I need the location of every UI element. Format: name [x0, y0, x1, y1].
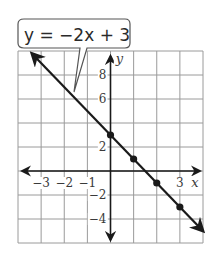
- data-point: [130, 155, 137, 162]
- data-point: [176, 203, 183, 210]
- equation-label: y = −2x + 3: [24, 25, 130, 45]
- data-point: [107, 131, 114, 138]
- x-tick-label: 3: [176, 176, 184, 190]
- y-tick-label: 8: [99, 68, 107, 82]
- y-tick-label: 6: [99, 92, 107, 106]
- line-graph: −3−2−13862−2−4xy y = −2x + 3: [0, 0, 206, 261]
- x-tick-label: −2: [55, 176, 73, 190]
- line-series: [32, 53, 203, 231]
- y-tick-label: −2: [89, 188, 107, 202]
- axes: [22, 56, 200, 240]
- data-point: [153, 179, 160, 186]
- y-tick-label: 2: [99, 140, 107, 154]
- x-axis-label: x: [191, 175, 199, 190]
- y-tick-label: −4: [89, 212, 107, 226]
- y-axis-label: y: [115, 51, 124, 66]
- x-tick-label: −3: [32, 176, 50, 190]
- tick-labels: −3−2−13862−2−4xy: [31, 51, 200, 226]
- graph-line: [32, 53, 203, 231]
